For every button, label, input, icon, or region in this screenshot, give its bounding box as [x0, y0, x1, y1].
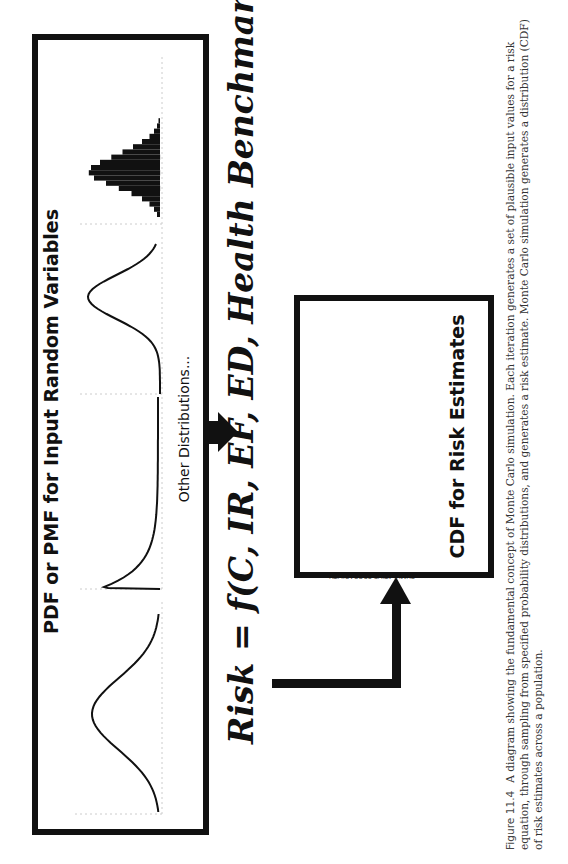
figure-label: Figure 11.4 — [504, 791, 516, 850]
histogram-bar — [94, 175, 160, 180]
histogram-bar — [119, 186, 160, 191]
risk-formula: Risk = f(C, IR, EF, ED, Health Benchmark… — [222, 104, 261, 744]
cdf-panel-title: CDF for Risk Estimates — [446, 295, 468, 578]
diagram-canvas: PDF or PMF for Input Random Variables Ot… — [0, 0, 568, 864]
lognormal-distribution-plot — [78, 394, 162, 589]
histogram-bar — [157, 212, 160, 217]
histogram-bar — [154, 129, 160, 134]
histogram-bar — [111, 155, 160, 160]
histogram-bar — [91, 165, 160, 170]
histogram-bar — [123, 149, 161, 154]
pdf-curve — [92, 614, 159, 812]
histogram-bar — [100, 160, 160, 165]
narrow-normal-distribution-plot — [78, 224, 162, 394]
caption-text: A diagram showing the fundamental concep… — [504, 19, 544, 850]
histogram-bar — [142, 139, 160, 144]
histogram-bar — [89, 170, 160, 175]
pdf-curve — [88, 244, 160, 394]
histogram-bar — [150, 201, 161, 206]
histogram-bar — [154, 207, 160, 212]
histogram-bar — [157, 123, 160, 128]
normal-distribution-plot — [75, 602, 162, 814]
histogram-bar — [133, 144, 160, 149]
arrow-to-cdf — [272, 577, 411, 688]
figure-caption: Figure 11.4A diagram showing the fundame… — [503, 14, 545, 850]
histogram-bar — [159, 118, 161, 123]
histogram-bar — [142, 196, 160, 201]
histogram-bar — [132, 191, 161, 196]
pdf-curve — [104, 397, 160, 589]
histogram-bar — [150, 134, 161, 139]
histogram-bar — [106, 181, 160, 186]
histogram-distribution-plot — [78, 54, 162, 224]
